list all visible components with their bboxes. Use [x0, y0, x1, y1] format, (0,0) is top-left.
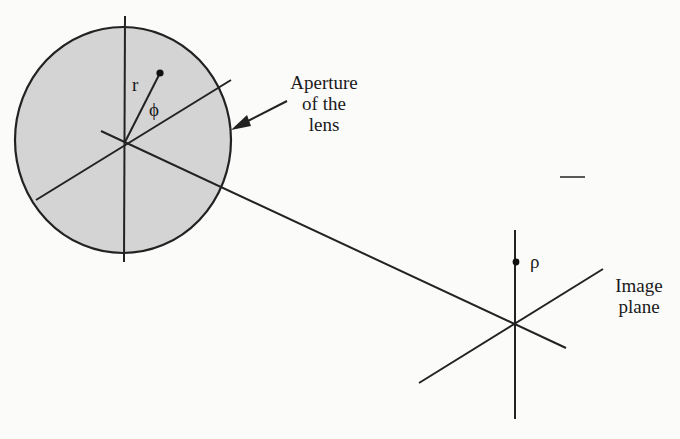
image-plane-label-line2: plane [604, 297, 674, 316]
lens-vertical-axis [124, 16, 125, 262]
aperture-label-line3: lens [276, 115, 372, 134]
aperture-label: Aperture of the lens [276, 73, 372, 134]
radius-label: r [132, 75, 138, 94]
lens-point [156, 69, 163, 76]
image-plane-label-line1: Image [604, 276, 674, 295]
aperture-label-line2: of the [276, 94, 372, 113]
angle-label: ϕ [149, 100, 159, 119]
aperture-label-line1: Aperture [276, 73, 372, 92]
rho-label: ρ [530, 252, 539, 271]
optics-diagram [0, 0, 680, 439]
aperture-arrow-head [231, 115, 251, 130]
image-plane-horizontal-axis [419, 269, 603, 383]
lens-aperture-disk [15, 27, 231, 253]
image-point [513, 259, 520, 266]
image-plane-label: Image plane [604, 276, 674, 316]
